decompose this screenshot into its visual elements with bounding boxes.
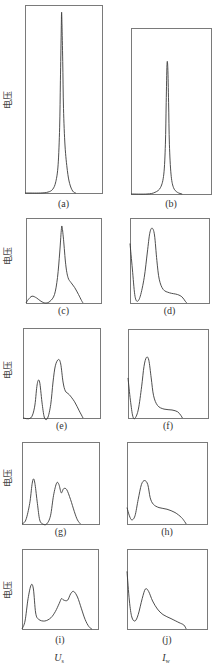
panel-label: (b) (165, 198, 177, 210)
panel-f: (f) (128, 330, 209, 433)
voltage-curve (127, 481, 186, 524)
panel-frame (132, 29, 212, 195)
panel-label: (e) (56, 420, 67, 432)
panel-c: (c)电压 (2, 219, 102, 318)
panel-label: (c) (58, 305, 69, 317)
voltage-curve (22, 584, 92, 629)
y-axis-label: 电压 (2, 469, 13, 487)
panel-a: (a)电压 (2, 6, 103, 211)
panel-frame (128, 550, 208, 630)
voltage-curve (25, 12, 76, 193)
voltage-curve (22, 479, 81, 525)
panel-frame (23, 443, 100, 525)
panel-frame (131, 219, 210, 304)
panel-j: (j) (127, 550, 208, 647)
panel-frame (26, 6, 103, 194)
y-axis-label: 电压 (2, 361, 13, 379)
xlabel-col-1: Iw (161, 652, 170, 664)
column-xlabels: Us Iw (54, 652, 170, 664)
panel-i: (i)电压 (2, 550, 99, 647)
xlabel-col-0: Us (54, 652, 64, 664)
panel-e: (e)电压 (2, 329, 101, 433)
panel-label: (d) (164, 305, 176, 317)
panel-frame (27, 219, 102, 304)
panel-g: (g)电压 (2, 443, 100, 539)
panel-label: (h) (161, 526, 173, 538)
panel-d: (d) (130, 219, 210, 318)
voltage-curve (130, 228, 187, 303)
panel-label: (f) (163, 420, 173, 432)
voltage-curve (131, 61, 182, 194)
y-axis-label: 电压 (2, 91, 13, 109)
panel-label: (j) (162, 634, 171, 646)
panels-layer: (a)电压(b)(c)电压(d)(e)电压(f)(g)电压(h)(i)电压(j) (2, 6, 212, 647)
panel-label: (a) (58, 198, 69, 210)
panel-b: (b) (131, 29, 212, 211)
voltage-curve (23, 359, 83, 419)
panel-label: (g) (55, 526, 67, 538)
voltage-curve (128, 357, 182, 419)
panel-frame (128, 443, 208, 525)
voltage-curve (26, 226, 83, 303)
voltage-curve (127, 571, 186, 629)
y-axis-label: 电压 (2, 581, 13, 599)
panel-h: (h) (127, 443, 208, 539)
y-axis-label: 电压 (2, 247, 13, 265)
waveform-figure: (a)电压(b)(c)电压(d)(e)电压(f)(g)电压(h)(i)电压(j)… (0, 0, 215, 668)
panel-label: (i) (55, 634, 64, 646)
panel-frame (129, 330, 209, 419)
